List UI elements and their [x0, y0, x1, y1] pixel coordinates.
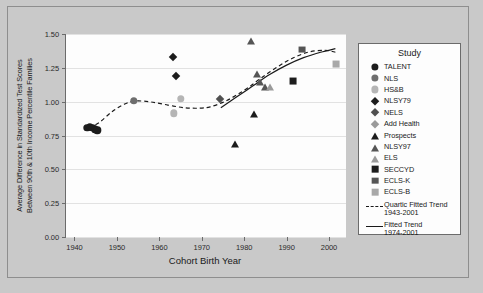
diamond-marker [371, 97, 379, 105]
triangle-marker [371, 144, 379, 151]
diamond-marker [371, 108, 379, 116]
square-marker [372, 177, 379, 184]
x-tick-mark [329, 237, 330, 241]
circle-marker [371, 63, 378, 70]
legend-line-label: Quartic Fitted Trend1943-2001 [384, 201, 447, 218]
x-tick-mark [159, 237, 160, 241]
legend-line-swatch [366, 221, 384, 232]
x-tick-mark [244, 237, 245, 241]
legend-item-nlsy79[interactable]: NLSY79 [359, 95, 460, 106]
legend-marker [366, 107, 384, 118]
x-tick-label: 2000 [321, 243, 337, 252]
y-tick-label: 0.25 [45, 199, 59, 208]
trend-line [221, 49, 336, 108]
legend-label: Prospects [384, 131, 416, 140]
legend-line-range: 1974-2001 [384, 229, 422, 238]
figure: Average Difference in Standardized Test … [0, 0, 483, 293]
legend-marker [366, 164, 384, 175]
x-tick-mark [74, 237, 75, 241]
legend-item-nls[interactable]: NLS [359, 72, 460, 83]
y-tick-label: 1.00 [45, 97, 59, 106]
y-tick-label: 0.50 [45, 165, 59, 174]
legend-line-item-dashed[interactable]: Quartic Fitted Trend1943-2001 [359, 201, 460, 218]
legend-item-add-health[interactable]: Add Health [359, 118, 460, 129]
data-point-prospects [250, 110, 258, 117]
y-axis-title: Average Difference in Standardized Test … [15, 34, 39, 237]
y-tick-label: 0.75 [45, 131, 59, 140]
x-tick-label: 1950 [109, 243, 125, 252]
data-point-nlsy97 [247, 38, 255, 45]
legend-marker [366, 175, 384, 186]
legend-label: NLSY97 [384, 142, 411, 151]
legend: Study TALENTNLSHS&BNLSY79NELSAdd HealthP… [358, 43, 461, 235]
trend-line [89, 50, 335, 128]
legend-item-ecls-b[interactable]: ECLS-B [359, 186, 460, 197]
data-point-ecls-b [332, 61, 339, 68]
data-point-els [266, 84, 274, 91]
triangle-marker [371, 155, 379, 162]
y-axis-title-line2: Between 90th & 10th Income Percentile Fa… [25, 34, 35, 237]
legend-item-ecls-k[interactable]: ECLS-K [359, 175, 460, 186]
legend-line-entries: Quartic Fitted Trend1943-2001Fitted Tren… [359, 201, 460, 238]
legend-marker [366, 152, 384, 163]
data-point-seccyd [290, 78, 297, 85]
legend-label: ELS [384, 153, 398, 162]
legend-label: HS&B [384, 85, 404, 94]
diamond-marker [371, 120, 379, 128]
data-point-prospects [231, 141, 239, 148]
y-tick-label: 0.00 [45, 233, 59, 242]
circle-marker [371, 86, 378, 93]
square-marker [372, 166, 379, 173]
legend-item-nels[interactable]: NELS [359, 107, 460, 118]
x-tick-label: 1990 [278, 243, 294, 252]
legend-marker [366, 141, 384, 152]
legend-marker [366, 186, 384, 197]
legend-line-item-solid[interactable]: Fitted Trend1974-2001 [359, 221, 460, 238]
legend-marker [366, 95, 384, 106]
y-tick-mark [62, 237, 66, 238]
gridline [66, 237, 346, 238]
x-tick-label: 1980 [236, 243, 252, 252]
legend-item-els[interactable]: ELS [359, 152, 460, 163]
legend-marker [366, 118, 384, 129]
legend-item-hs-b[interactable]: HS&B [359, 84, 460, 95]
legend-label: TALENT [384, 62, 411, 71]
legend-entries: TALENTNLSHS&BNLSY79NELSAdd HealthProspec… [359, 61, 460, 198]
legend-marker [366, 61, 384, 72]
legend-label: NELS [384, 108, 403, 117]
legend-marker [366, 84, 384, 95]
legend-line-range: 1943-2001 [384, 209, 447, 218]
legend-label: ECLS-B [384, 187, 410, 196]
trend-curves [66, 34, 346, 237]
x-axis-title: Cohort Birth Year [65, 255, 345, 266]
legend-label: NLS [384, 74, 398, 83]
x-tick-label: 1960 [151, 243, 167, 252]
data-point-nlsy97 [253, 70, 261, 77]
y-axis-title-line1: Average Difference in Standardized Test … [15, 34, 25, 237]
data-point-ecls-k [299, 46, 306, 53]
y-tick-label: 1.50 [45, 30, 59, 39]
x-tick-label: 1970 [194, 243, 210, 252]
x-tick-mark [117, 237, 118, 241]
legend-marker [366, 73, 384, 84]
circle-marker [371, 74, 378, 81]
legend-label: ECLS-K [384, 176, 410, 185]
legend-marker [366, 130, 384, 141]
x-tick-label: 1940 [66, 243, 82, 252]
legend-title: Study [359, 48, 460, 58]
plot-area: 0.000.250.500.751.001.251.50 19401950196… [65, 34, 346, 238]
y-tick-label: 1.25 [45, 63, 59, 72]
legend-label: NLSY79 [384, 96, 411, 105]
legend-line-label: Fitted Trend1974-2001 [384, 221, 422, 238]
square-marker [372, 189, 379, 196]
x-tick-mark [202, 237, 203, 241]
legend-item-nlsy97[interactable]: NLSY97 [359, 141, 460, 152]
legend-label: Add Health [384, 119, 420, 128]
legend-item-talent[interactable]: TALENT [359, 61, 460, 72]
triangle-marker [371, 133, 379, 140]
legend-item-seccyd[interactable]: SECCYD [359, 164, 460, 175]
legend-line-swatch [366, 201, 384, 212]
legend-label: SECCYD [384, 165, 414, 174]
legend-item-prospects[interactable]: Prospects [359, 129, 460, 140]
x-tick-mark [287, 237, 288, 241]
